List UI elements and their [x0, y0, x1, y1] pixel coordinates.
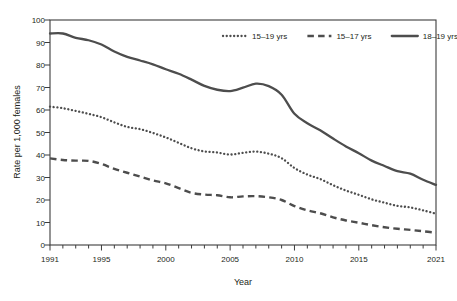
x-tick-label: 2000 [157, 255, 175, 264]
x-axis-title: Year [234, 277, 252, 287]
y-tick-label: 50 [36, 129, 45, 138]
y-tick-label: 10 [36, 219, 45, 228]
chart-legend: 15–19 yrs15–17 yrs18–19 yrs [217, 28, 457, 45]
y-tick-label: 70 [36, 84, 45, 93]
legend-label: 15–17 yrs [336, 32, 371, 41]
legend-label: 18–19 yrs [423, 32, 457, 41]
y-tick-label: 40 [36, 151, 45, 160]
y-tick-label: 100 [32, 16, 46, 25]
birth-rate-line-chart: 0102030405060708090100 19911995200020052… [0, 0, 457, 301]
series-line-dashed [50, 158, 436, 232]
series-line-solid [50, 33, 436, 185]
x-tick-label: 1995 [93, 255, 111, 264]
legend-label: 15–19 yrs [252, 32, 287, 41]
x-tick-label: 2021 [427, 255, 445, 264]
y-axis-title: Rate per 1,000 females [12, 85, 22, 179]
chart-figure: 0102030405060708090100 19911995200020052… [0, 0, 457, 301]
x-tick-label: 1991 [41, 255, 59, 264]
y-axis-tick-labels: 0102030405060708090100 [32, 16, 46, 250]
plot-frame [50, 20, 436, 245]
x-tick-label: 2015 [350, 255, 368, 264]
y-tick-label: 90 [36, 39, 45, 48]
y-tick-label: 30 [36, 174, 45, 183]
x-axis-tickmarks [50, 245, 436, 251]
y-axis-tickmarks [45, 20, 51, 245]
series-line-dotted [50, 107, 436, 214]
x-axis-tick-labels: 1991199520002005201020152021 [41, 255, 445, 264]
data-series-group [50, 33, 436, 232]
y-tick-label: 20 [36, 196, 45, 205]
x-tick-label: 2010 [286, 255, 304, 264]
y-tick-label: 60 [36, 106, 45, 115]
y-tick-label: 80 [36, 61, 45, 70]
x-tick-label: 2005 [221, 255, 239, 264]
